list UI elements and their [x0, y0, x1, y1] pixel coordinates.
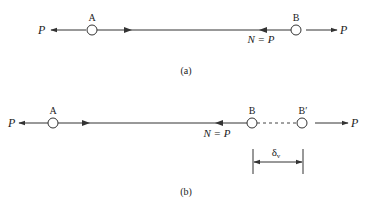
internal-force-label-b: N = P — [203, 127, 231, 139]
arrowhead-left-icon — [215, 120, 223, 126]
caption-b: (b) — [180, 186, 192, 198]
displacement-label: δv — [272, 146, 281, 160]
node-a-b — [48, 118, 58, 128]
node-b-b — [247, 118, 257, 128]
internal-force-label-a: N = P — [247, 33, 275, 45]
force-label-right-a: P — [339, 23, 348, 37]
displacement-dimension: δv — [253, 146, 303, 174]
node-label-b-prime: B′ — [299, 105, 308, 116]
truss-bar-diagram: P A B N = P P (a) P A B — [0, 0, 372, 208]
force-label-left-a: P — [37, 23, 46, 37]
node-b-a — [291, 25, 301, 35]
node-label-b-b: B — [249, 105, 256, 116]
diagram-b: P A B B′ N = P P δv (b) — [7, 105, 359, 198]
node-label-a-a: A — [88, 12, 96, 23]
node-a-a — [87, 25, 97, 35]
force-label-right-b: P — [350, 116, 359, 130]
node-b-prime — [297, 118, 307, 128]
arrowhead-right-icon — [124, 27, 132, 33]
node-label-a-b: A — [49, 105, 57, 116]
node-label-b-a: B — [293, 12, 300, 23]
force-label-left-b: P — [7, 116, 16, 130]
diagram-a: P A B N = P P (a) — [37, 12, 348, 77]
arrowhead-right-icon — [82, 120, 90, 126]
caption-a: (a) — [180, 65, 191, 77]
